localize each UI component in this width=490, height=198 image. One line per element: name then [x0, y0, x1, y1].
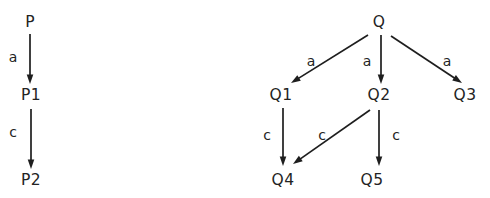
edge-p1-to-p2: c	[9, 109, 34, 169]
node-label-q1: Q1	[270, 86, 293, 104]
edge-label: c	[263, 127, 271, 143]
arrowhead-icon	[280, 157, 287, 167]
diagram-layer: acPP1P2aaacccQQ1Q2Q3Q4Q5	[9, 13, 477, 189]
node-label-p: P	[25, 13, 35, 31]
figure-root: acPP1P2aaacccQQ1Q2Q3Q4Q5	[0, 0, 490, 198]
arrowhead-icon	[27, 75, 34, 85]
arrowhead-icon	[28, 160, 35, 170]
node-label-q2: Q2	[368, 86, 391, 104]
node-label-p1: P1	[21, 86, 41, 104]
edge-label: c	[392, 127, 400, 143]
edge-line	[299, 110, 370, 160]
transition-diagrams-canvas: acPP1P2aaacccQQ1Q2Q3Q4Q5	[0, 0, 490, 198]
edge-q2-to-q5: c	[376, 110, 400, 166]
arrowhead-icon	[293, 156, 303, 164]
edge-label: a	[307, 53, 316, 69]
edge-label: a	[443, 53, 452, 69]
edge-q-to-q3: a	[391, 36, 462, 83]
edge-label: a	[363, 53, 372, 69]
edge-q-to-q1: a	[291, 35, 368, 83]
node-label-q4: Q4	[272, 171, 295, 189]
process-q-diagram: aaacccQQ1Q2Q3Q4Q5	[263, 13, 476, 189]
edge-q2-to-q4: c	[293, 110, 370, 164]
edge-label: c	[9, 124, 17, 140]
arrowhead-icon	[291, 75, 301, 83]
node-label-q: Q	[373, 13, 386, 31]
node-label-p2: P2	[21, 171, 41, 189]
node-label-q5: Q5	[361, 171, 384, 189]
node-label-q3: Q3	[454, 86, 477, 104]
edge-p-to-p1: a	[9, 34, 34, 84]
arrowhead-icon	[452, 75, 462, 83]
process-p-diagram: acPP1P2	[9, 13, 41, 189]
edge-q-to-q2: a	[363, 35, 385, 84]
edge-q1-to-q4: c	[263, 108, 286, 166]
arrowhead-icon	[376, 157, 383, 167]
edge-label: a	[9, 49, 18, 65]
arrowhead-icon	[378, 75, 385, 85]
edge-label: c	[318, 127, 326, 143]
